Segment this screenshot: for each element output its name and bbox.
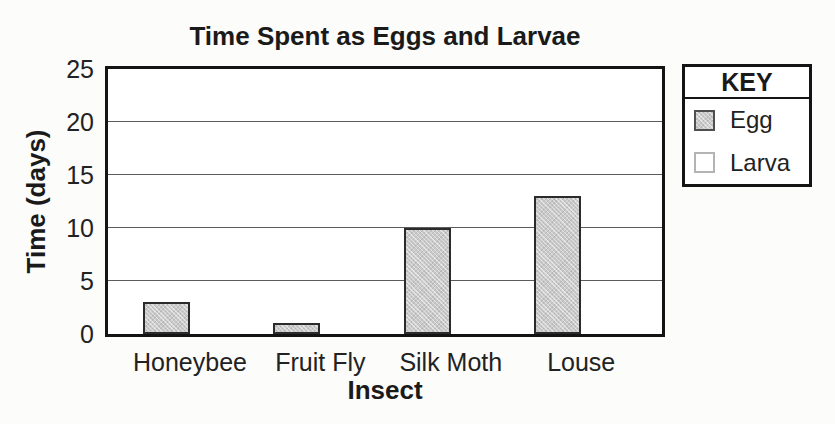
y-tick-label-0: 0 xyxy=(80,320,94,349)
y-tick-label-10: 10 xyxy=(66,214,94,243)
x-axis-labels: HoneybeeFruit FlySilk MothLouse xyxy=(108,348,662,376)
legend-item-label: Egg xyxy=(730,106,773,134)
x-label-fruit-fly: Fruit Fly xyxy=(275,348,365,377)
chart-title: Time Spent as Eggs and Larvae xyxy=(105,21,665,52)
x-label-honeybee: Honeybee xyxy=(133,348,247,377)
scanned-worksheet-page: Time Spent as Eggs and Larvae Time (days… xyxy=(0,0,835,424)
y-tick-label-15: 15 xyxy=(66,161,94,190)
x-axis-title: Insect xyxy=(105,375,665,406)
y-tick-label-5: 5 xyxy=(80,267,94,296)
x-label-silk-moth: Silk Moth xyxy=(399,348,502,377)
gridline-15 xyxy=(108,174,662,175)
y-tick-label-20: 20 xyxy=(66,108,94,137)
egg-swatch-icon xyxy=(694,110,715,131)
x-label-louse: Louse xyxy=(547,348,615,377)
legend-title: KEY xyxy=(685,67,809,99)
gridline-20 xyxy=(108,121,662,122)
legend-item-larva: Larva xyxy=(694,149,809,177)
legend-key: KEY Egg Larva xyxy=(682,64,812,187)
bar-egg-fruit-fly xyxy=(273,323,320,334)
larva-swatch-icon xyxy=(694,152,715,173)
legend-item-label: Larva xyxy=(730,149,790,177)
y-axis-tick-labels: 0510152025 xyxy=(0,69,94,334)
legend-items: Egg Larva xyxy=(685,99,809,184)
bar-egg-honeybee xyxy=(143,302,190,334)
bar-egg-silk-moth xyxy=(404,228,451,334)
bar-egg-louse xyxy=(534,196,581,334)
plot-area xyxy=(105,66,665,337)
y-tick-label-25: 25 xyxy=(66,55,94,84)
legend-item-egg: Egg xyxy=(694,106,809,134)
